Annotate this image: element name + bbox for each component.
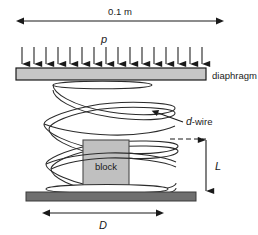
spring-turn-top [53, 81, 152, 89]
diameter-dimension-label: D [99, 219, 107, 231]
dimension-spring-diameter: D [50, 213, 156, 231]
spring-strand [44, 102, 175, 124]
spring-strand-front [44, 124, 175, 135]
base-bar [26, 192, 196, 201]
diaphragm-label: diaphragm [212, 70, 257, 81]
spring-diaphragm-diagram: 0.1 m p diaphragm [0, 0, 258, 235]
block-label: block [95, 161, 117, 172]
diagram-canvas: 0.1 m p diaphragm [0, 0, 258, 235]
spring-strand [49, 107, 175, 129]
width-dimension-label: 0.1 m [108, 6, 132, 17]
dimension-spring-length: L [206, 140, 221, 191]
wire-suffix: -wire [192, 116, 213, 127]
wire-callout: d-wire [158, 113, 212, 127]
pressure-label: p [100, 33, 107, 45]
pressure-arrow-group [22, 47, 202, 64]
wire-label: d-wire [186, 115, 212, 127]
diaphragm-bar [16, 68, 206, 80]
wire-leader-line [158, 113, 183, 122]
dimension-width: 0.1 m [24, 6, 216, 21]
length-dimension-label: L [215, 160, 221, 172]
